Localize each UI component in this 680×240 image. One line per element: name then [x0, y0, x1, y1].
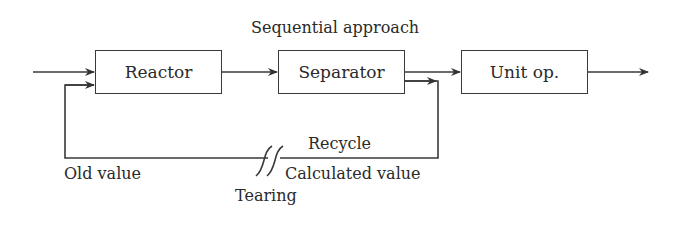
- tearing-mark-right: [267, 146, 283, 176]
- reactor-label: Reactor: [125, 62, 193, 82]
- unit-op-block: Unit op.: [461, 50, 588, 94]
- diagram-title: Sequential approach: [251, 20, 419, 36]
- calculated-value-label: Calculated value: [285, 166, 421, 182]
- separator-label: Separator: [298, 62, 384, 82]
- unit-op-label: Unit op.: [490, 62, 559, 82]
- separator-block: Separator: [278, 50, 405, 94]
- recycle-label: Recycle: [308, 136, 371, 152]
- recycle-old-value-line: [65, 85, 268, 158]
- tearing-label: Tearing: [235, 188, 297, 204]
- tearing-mark-left: [256, 146, 272, 176]
- old-value-label: Old value: [64, 166, 141, 182]
- reactor-block: Reactor: [95, 50, 222, 94]
